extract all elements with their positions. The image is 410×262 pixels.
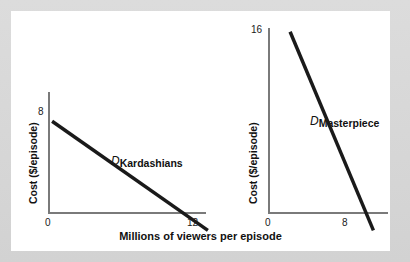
right-chart-x-tick-8: 8 xyxy=(342,217,348,228)
right-chart-y-axis xyxy=(268,28,270,214)
demand-curve-masterpiece xyxy=(290,32,373,231)
left-chart-curve-symbol: D xyxy=(111,154,120,168)
shared-x-axis-title: Millions of viewers per episode xyxy=(11,230,390,242)
right-chart-y-tick-16: 16 xyxy=(251,24,262,35)
right-chart-curve-label: DMasterpiece xyxy=(310,114,379,128)
left-chart-x-axis xyxy=(48,212,206,214)
left-chart-curve-subscript: Kardashians xyxy=(120,157,183,169)
left-chart-curve-label: DKardashians xyxy=(111,154,183,168)
left-chart-y-tick-8: 8 xyxy=(38,106,44,117)
right-chart-curve-subscript: Masterpiece xyxy=(319,117,380,129)
demand-curves-layer xyxy=(11,11,410,262)
left-chart-x-tick-12: 12 xyxy=(187,217,198,228)
figure-outer-frame: Cost ($/episode) 8 0 12 DKardashians Cos… xyxy=(0,0,410,262)
left-chart-y-axis-title: Cost ($/episode) xyxy=(27,122,39,204)
demand-curve-kardashians xyxy=(52,121,208,230)
right-chart-x-axis xyxy=(268,212,388,214)
left-chart-y-axis xyxy=(48,92,50,214)
right-chart-y-axis-title: Cost ($/episode) xyxy=(247,122,259,204)
figure-white-panel: Cost ($/episode) 8 0 12 DKardashians Cos… xyxy=(11,11,390,251)
left-chart-x-tick-0: 0 xyxy=(45,217,51,228)
right-chart-x-tick-0: 0 xyxy=(265,217,271,228)
right-chart-curve-symbol: D xyxy=(310,114,319,128)
